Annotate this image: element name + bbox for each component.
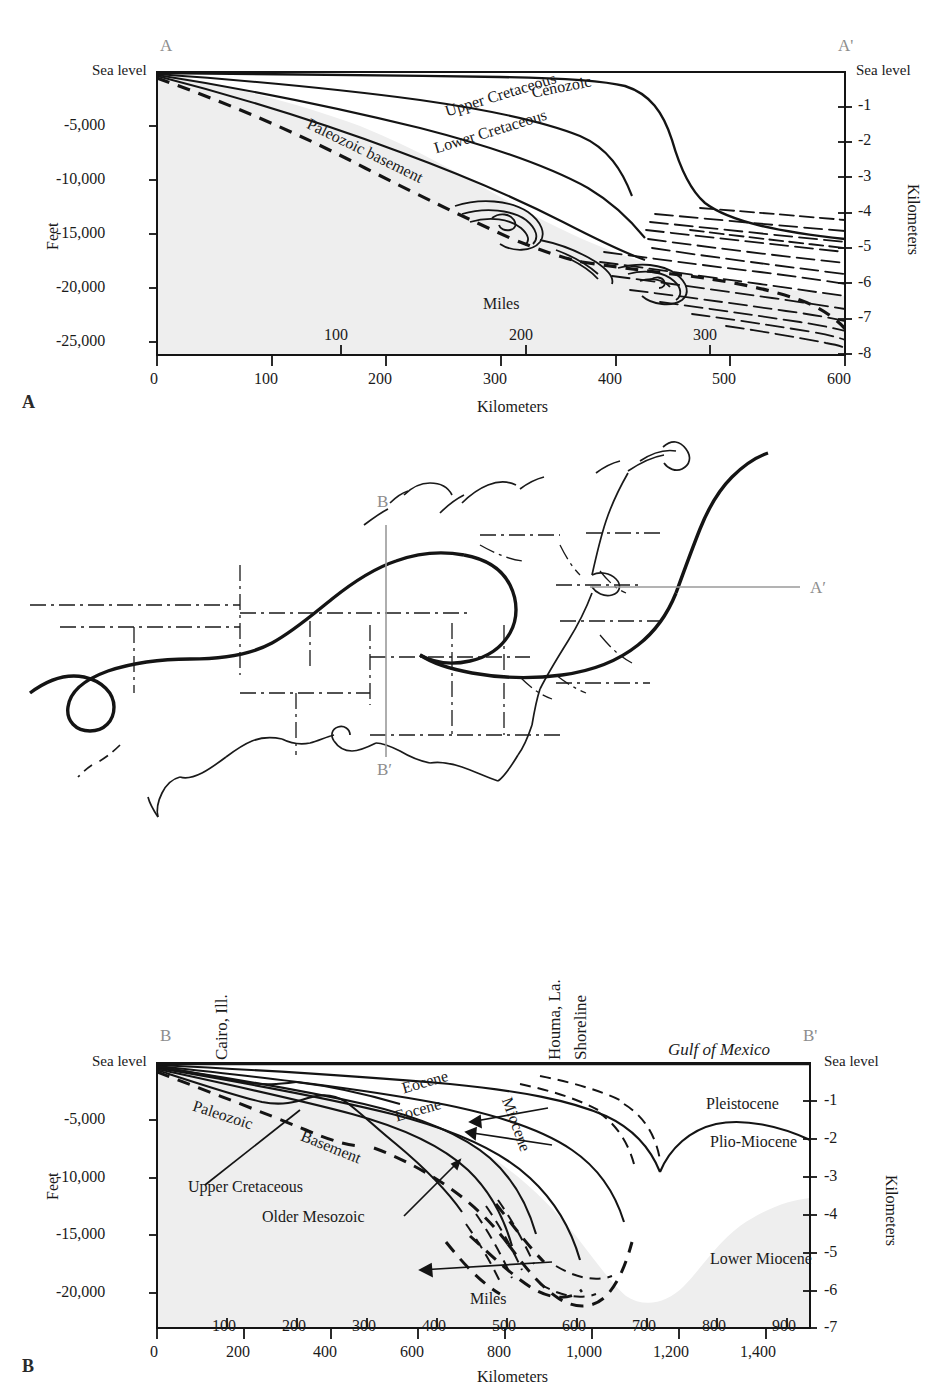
panel-a-miles-tick-0: 100 bbox=[324, 326, 348, 344]
panel-b-ytick-1: -10,000 bbox=[56, 1168, 105, 1186]
panel-b-xtick-0: 0 bbox=[150, 1343, 158, 1361]
panel-b-xtick-4: 800 bbox=[487, 1343, 511, 1361]
panel-b-place-gulf-of-mexico: Gulf of Mexico bbox=[668, 1040, 770, 1060]
panel-a-ytickr-2: -3 bbox=[858, 167, 871, 185]
panel-b-xtick-7: 1,400 bbox=[740, 1343, 776, 1361]
panel-b-xtick-5: 1,000 bbox=[566, 1343, 602, 1361]
figure-root: A A' A Sea level -5,000 -10,000 -15,000 … bbox=[0, 0, 947, 1389]
panel-b-xtick-3: 600 bbox=[400, 1343, 424, 1361]
panel-a-miles-tick-2: 300 bbox=[693, 326, 717, 344]
panel-b-miles-tick-8: 900 bbox=[772, 1317, 796, 1335]
panel-a-sea-level-left: Sea level bbox=[92, 62, 147, 79]
panel-b-miles-tick-7: 800 bbox=[702, 1317, 726, 1335]
panel-a-xtick-4: 400 bbox=[598, 370, 622, 388]
panel-a-yaxis-right-title: Kilometers bbox=[904, 184, 922, 255]
panel-a-ytick-4: -25,000 bbox=[56, 332, 105, 350]
panel-a-xtick-6: 600 bbox=[827, 370, 851, 388]
panel-a-ytickr-6: -7 bbox=[858, 308, 871, 326]
map-label-b-prime: B′ bbox=[377, 760, 392, 779]
panel-a-ytick-1: -10,000 bbox=[56, 170, 105, 188]
panel-a-ytick-3: -20,000 bbox=[56, 278, 105, 296]
panel-b-ytickr-6: -7 bbox=[824, 1318, 837, 1336]
panel-a-miles-tick-1: 200 bbox=[509, 326, 533, 344]
panel-b-ytickr-2: -3 bbox=[824, 1167, 837, 1185]
panel-a-ytickr-7: -8 bbox=[858, 344, 871, 362]
panel-b-place-houma: Houma, La. bbox=[545, 979, 565, 1060]
panel-a-ytickr-0: -1 bbox=[858, 96, 871, 114]
panel-a-xtick-1: 100 bbox=[254, 370, 278, 388]
panel-b-sea-level-left: Sea level bbox=[92, 1053, 147, 1070]
panel-a-miles-title: Miles bbox=[483, 295, 519, 313]
panel-b-yaxis-title: Feet bbox=[44, 1172, 62, 1200]
panel-b-unit-plio-miocene: Plio-Miocene bbox=[710, 1133, 797, 1151]
panel-b-place-cairo: Cairo, Ill. bbox=[212, 994, 232, 1060]
panel-a-xtick-2: 200 bbox=[368, 370, 392, 388]
map-section-lines bbox=[386, 525, 800, 757]
panel-b-miles-title: Miles bbox=[470, 1290, 506, 1308]
panel-a-sea-level-right: Sea level bbox=[856, 62, 911, 79]
panel-b-miles-tick-6: 700 bbox=[632, 1317, 656, 1335]
panel-a-left-ticks bbox=[149, 126, 157, 342]
panel-a-xtick-5: 500 bbox=[712, 370, 736, 388]
panel-a-bottom-ticks bbox=[157, 355, 845, 366]
panel-a-ytick-2: -15,000 bbox=[56, 224, 105, 242]
panel-b-sea-level-right: Sea level bbox=[824, 1053, 879, 1070]
panel-a-ytick-0: -5,000 bbox=[64, 116, 105, 134]
panel-b-xtick-2: 400 bbox=[313, 1343, 337, 1361]
panel-b-left-ticks bbox=[149, 1120, 157, 1293]
panel-a-yaxis-title: Feet bbox=[44, 222, 62, 250]
panel-b-xaxis-title: Kilometers bbox=[477, 1368, 548, 1386]
panel-a-xtick-3: 300 bbox=[483, 370, 507, 388]
panel-b-unit-older-mesozoic: Older Mesozoic bbox=[262, 1208, 365, 1226]
panel-b-ytick-3: -20,000 bbox=[56, 1283, 105, 1301]
panel-b-unit-pleistocene: Pleistocene bbox=[706, 1095, 779, 1113]
index-map-svg: A′ B B′ bbox=[0, 425, 947, 825]
panel-b-bottom-ticks bbox=[157, 1328, 766, 1339]
panel-b-ytickr-4: -5 bbox=[824, 1243, 837, 1261]
panel-b-right-end-label: B' bbox=[803, 1026, 817, 1046]
panel-b-unit-upper-cretaceous: Upper Cretaceous bbox=[188, 1178, 303, 1196]
panel-b-ytickr-5: -6 bbox=[824, 1281, 837, 1299]
panel-a-left-end-label: A bbox=[160, 36, 172, 56]
panel-b-ytick-2: -15,000 bbox=[56, 1225, 105, 1243]
panel-b-xtick-1: 200 bbox=[226, 1343, 250, 1361]
panel-b-left-end-label: B bbox=[160, 1026, 171, 1046]
panel-a-xtick-0: 0 bbox=[150, 370, 158, 388]
panel-a-ytickr-5: -6 bbox=[858, 273, 871, 291]
panel-b-miles-tick-3: 400 bbox=[422, 1317, 446, 1335]
panel-b-ytick-0: -5,000 bbox=[64, 1110, 105, 1128]
panel-b-miles-tick-4: 500 bbox=[492, 1317, 516, 1335]
panel-a-ytickr-3: -4 bbox=[858, 202, 871, 220]
panel-b-svg bbox=[0, 1040, 947, 1389]
panel-b-miles-tick-2: 300 bbox=[352, 1317, 376, 1335]
panel-b-ytickr-0: -1 bbox=[824, 1091, 837, 1109]
panel-a-xaxis-title: Kilometers bbox=[477, 398, 548, 416]
panel-b-unit-lower-miocene: Lower Miocene bbox=[710, 1250, 812, 1268]
panel-b-miles-tick-5: 600 bbox=[562, 1317, 586, 1335]
panel-b-letter: B bbox=[22, 1356, 34, 1377]
panel-a-letter: A bbox=[22, 392, 35, 413]
panel-b-xtick-6: 1,200 bbox=[653, 1343, 689, 1361]
map-label-b: B bbox=[377, 492, 388, 511]
panel-b-miles-tick-0: 100 bbox=[212, 1317, 236, 1335]
panel-b-place-shoreline: Shoreline bbox=[571, 995, 591, 1060]
panel-b-miles-tick-1: 200 bbox=[282, 1317, 306, 1335]
map-label-a-prime: A′ bbox=[810, 578, 826, 597]
panel-b-ytickr-1: -2 bbox=[824, 1129, 837, 1147]
panel-a-ytickr-1: -2 bbox=[858, 131, 871, 149]
panel-a-right-end-label: A' bbox=[838, 36, 853, 56]
panel-b-ytickr-3: -4 bbox=[824, 1205, 837, 1223]
panel-a-ytickr-4: -5 bbox=[858, 237, 871, 255]
panel-b-yaxis-right-title: Kilometers bbox=[882, 1175, 900, 1246]
